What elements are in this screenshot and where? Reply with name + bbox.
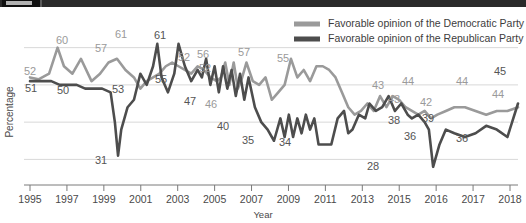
series-layer [30, 44, 518, 167]
series-line-republican [30, 44, 518, 167]
x-tick-label: 2016 [424, 193, 448, 205]
data-labels: 5260576161555256524746575540353451505331… [24, 28, 506, 172]
line-chart: 5260576161555256524746575540353451505331… [0, 7, 526, 223]
x-tick-label: 2013 [351, 193, 375, 205]
data-label: 36 [404, 130, 416, 142]
data-label: 43 [388, 93, 400, 105]
data-label: 53 [112, 83, 124, 95]
data-label: 52 [199, 62, 211, 74]
y-axis-title: Percentage [4, 86, 15, 138]
x-axis-title: Year [253, 209, 272, 220]
legend-swatch-democratic[interactable] [294, 22, 320, 27]
data-label: 57 [238, 46, 250, 58]
x-tick-label: 2018 [498, 193, 522, 205]
data-label: 50 [57, 84, 69, 96]
x-tick-label: 2007 [240, 193, 264, 205]
gridlines [24, 48, 518, 160]
data-label: 42 [420, 96, 432, 108]
data-label: 28 [367, 160, 379, 172]
data-label: 36 [456, 132, 468, 144]
data-label: 34 [279, 136, 291, 148]
data-label: 56 [197, 48, 209, 60]
legend-label-republican[interactable]: Favorable opinion of the Republican Part… [328, 32, 524, 44]
data-label: 44 [492, 88, 504, 100]
series-line-democratic [30, 48, 518, 119]
data-label: 61 [115, 28, 127, 40]
data-label: 52 [24, 65, 36, 77]
x-tick-label: 2015 [388, 193, 412, 205]
data-label: 43 [372, 79, 384, 91]
x-tick-label: 2003 [166, 193, 190, 205]
x-tick-label: 1995 [18, 193, 42, 205]
chart-legend[interactable]: Favorable opinion of the Democratic Part… [294, 17, 525, 44]
data-label: 55 [277, 52, 289, 64]
data-label: 38 [388, 114, 400, 126]
x-axis: 1995199719992001200320052007200920112013… [18, 185, 522, 205]
data-label: 52 [178, 51, 190, 63]
data-label: 46 [205, 98, 217, 110]
x-tick-label: 2017 [461, 193, 485, 205]
data-label: 35 [242, 134, 254, 146]
x-tick-label: 2005 [203, 193, 227, 205]
window-top-bar [0, 0, 526, 7]
data-label: 44 [402, 75, 414, 87]
x-tick-label: 1997 [55, 193, 79, 205]
data-label: 44 [456, 75, 468, 87]
data-label: 61 [154, 29, 166, 41]
top-bar-glyph-icon [6, 1, 32, 5]
top-bar-chip [2, 0, 42, 7]
chart-container: 5260576161555256524746575540353451505331… [0, 7, 526, 223]
data-label: 39 [422, 112, 434, 124]
legend-swatch-republican[interactable] [294, 37, 320, 42]
data-label: 40 [217, 120, 229, 132]
x-tick-label: 2009 [277, 193, 301, 205]
x-tick-label: 1999 [92, 193, 116, 205]
data-label: 57 [95, 42, 107, 54]
data-label: 55 [155, 73, 167, 85]
data-label: 60 [56, 34, 68, 46]
x-tick-label: 2011 [314, 193, 337, 205]
data-label: 47 [184, 95, 196, 107]
x-tick-label: 2001 [129, 193, 153, 205]
data-label: 51 [25, 82, 37, 94]
data-label: 31 [95, 154, 107, 166]
legend-label-democratic[interactable]: Favorable opinion of the Democratic Part… [328, 17, 525, 29]
data-label: 45 [494, 65, 506, 77]
